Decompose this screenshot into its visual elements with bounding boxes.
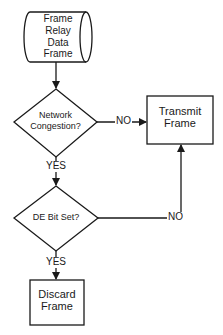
de-bit-line-1: DE Bit Set? [14, 212, 98, 223]
start-node-label: Frame Relay Data Frame [30, 13, 86, 60]
start-line-1: Frame [30, 13, 86, 25]
congestion-line-2: Congestion? [14, 121, 97, 132]
congestion-line-1: Network [14, 110, 97, 121]
start-line-2: Relay [30, 25, 86, 37]
edge-label-yes-de-bit: YES [45, 161, 67, 172]
discard-node-label: Discard Frame [30, 289, 84, 313]
edge-label-no-de-bit: NO [167, 212, 184, 223]
discard-line-2: Frame [30, 301, 84, 313]
congestion-node-label: Network Congestion? [14, 110, 97, 133]
transmit-node-label: Transmit Frame [147, 106, 213, 130]
flowchart-canvas: Frame Relay Data Frame Network Congestio… [0, 0, 223, 335]
start-line-4: Frame [30, 48, 86, 60]
edge-label-yes-discard: YES [45, 257, 67, 268]
edge-de-bit-to-transmit [98, 145, 181, 218]
de-bit-node-label: DE Bit Set? [14, 212, 98, 223]
start-line-3: Data [30, 37, 86, 49]
edge-label-no-transmit: NO [115, 116, 132, 127]
transmit-line-2: Frame [147, 118, 213, 130]
